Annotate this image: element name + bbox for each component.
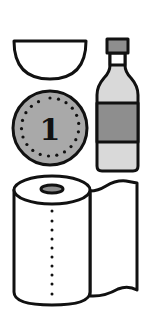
- bottle-icon: [97, 39, 138, 171]
- bowl-icon: [14, 41, 86, 79]
- grocery-icons-illustration: 1: [0, 0, 167, 315]
- coin-number: 1: [40, 112, 61, 147]
- coin-icon: 1: [13, 91, 87, 165]
- paper-towel-roll-icon: [14, 176, 137, 305]
